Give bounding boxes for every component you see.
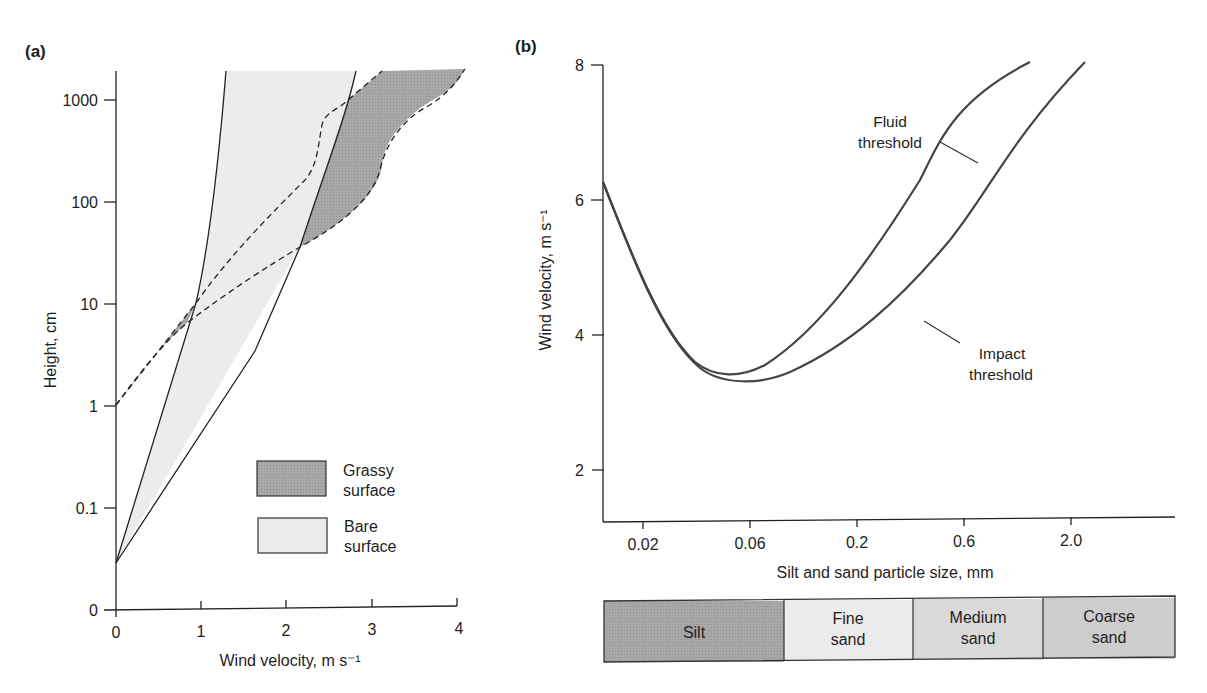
figure: (a) 1000 100 10 1 0.1 0 [0,0,1207,693]
x-tick-label: 4 [455,620,464,637]
x-axis-a [104,606,457,610]
impact-threshold-label: Impact [979,345,1026,362]
y-axis-title-b: Wind velocity, m s⁻¹ [537,209,554,350]
y-tick-label: 1000 [62,92,98,109]
size-class-label: sand [1092,629,1127,646]
legend-label: Grassy [343,462,394,479]
y-tick-label: 100 [71,194,98,211]
x-tick-label: 2 [282,622,291,639]
panel-a-label: (a) [25,42,46,61]
x-tick-label: 0.02 [627,536,658,553]
y-tick-label: 8 [575,57,584,74]
size-class-label: Fine [832,610,863,627]
legend-label: Bare [344,518,378,535]
size-class-label: Medium [950,609,1007,626]
legend-swatch-bare [258,518,327,553]
fluid-threshold-label: threshold [858,134,922,151]
fluid-threshold-label: Fluid [873,113,907,130]
x-ticks-a [116,598,457,617]
legend-label: surface [344,538,397,555]
y-ticks-a [104,100,116,508]
x-axis-b [603,517,1175,522]
panel-a: (a) 1000 100 10 1 0.1 0 [25,42,465,669]
x-axis-title-b: Silt and sand particle size, mm [777,564,994,581]
size-class-label: Silt [683,624,706,641]
y-tick-label: 0 [89,602,98,619]
size-class-bar: Silt Fine sand Medium sand Coarse sand [604,596,1175,662]
x-tick-label: 3 [368,621,377,638]
legend-a: Grassy surface Bare surface [257,461,397,555]
fluid-threshold-leader [940,142,978,163]
y-tick-label: 1 [89,398,98,415]
y-ticks-b [591,65,604,470]
impact-threshold-curve [603,62,1085,381]
x-tick-label: 2.0 [1060,532,1082,549]
x-axis-title-a: Wind velocity, m s⁻¹ [219,652,360,669]
y-tick-label: 0.1 [76,500,98,517]
x-tick-label: 0.2 [846,534,868,551]
x-tick-label: 0.6 [953,533,975,550]
panel-b: (b) 8 6 4 2 0.02 0.06 0.2 0.6 2.0 Silt a… [515,37,1175,662]
size-class-label: sand [961,630,996,647]
y-tick-label: 2 [575,462,584,479]
impact-threshold-leader [924,321,960,343]
x-tick-label: 0 [112,624,121,641]
impact-threshold-label: threshold [969,366,1033,383]
y-tick-label: 10 [80,296,98,313]
y-tick-label: 6 [575,192,584,209]
size-class-label: Coarse [1083,608,1135,625]
panel-b-label: (b) [515,37,537,56]
y-axis-title-a: Height, cm [42,312,59,388]
legend-label: surface [343,482,396,499]
x-tick-label: 1 [197,623,206,640]
size-class-label: sand [831,631,866,648]
y-tick-label: 4 [575,327,584,344]
x-tick-label: 0.06 [734,535,765,552]
legend-swatch-grassy [257,461,326,496]
